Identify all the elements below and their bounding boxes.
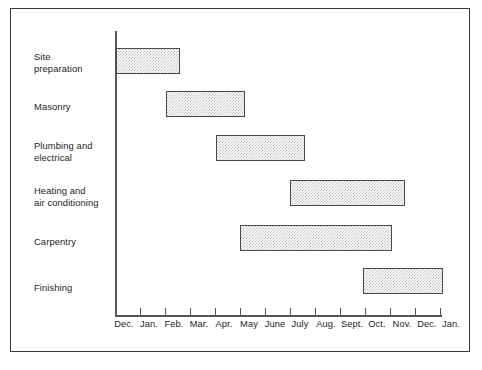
x-tick-label-dec-1: Dec.	[114, 319, 134, 329]
x-tick-7	[290, 308, 291, 316]
x-tick-label-jan-2: Jan.	[442, 319, 460, 329]
x-tick-label-may: May	[240, 319, 258, 329]
x-tick-label-mar: Mar.	[190, 319, 208, 329]
task-bar-finishing[interactable]	[363, 268, 443, 294]
x-tick-12	[415, 308, 416, 316]
x-tick-1	[140, 308, 141, 316]
x-tick-label-july: July	[292, 319, 309, 329]
x-tick-label-jan-1: Jan.	[140, 319, 158, 329]
x-tick-label-apr: Apr.	[216, 319, 233, 329]
task-bar-masonry[interactable]	[166, 91, 245, 117]
row-label-finishing: Finishing	[34, 282, 72, 294]
x-tick-4	[215, 308, 216, 316]
x-tick-13	[440, 308, 441, 316]
x-tick-10	[365, 308, 366, 316]
x-tick-label-aug: Aug.	[316, 319, 336, 329]
row-label-plumbing-electrical: Plumbing and electrical	[34, 140, 93, 163]
x-tick-11	[390, 308, 391, 316]
task-bar-site-preparation[interactable]	[116, 48, 180, 74]
x-tick-label-dec-2: Dec.	[417, 319, 437, 329]
x-tick-8	[315, 308, 316, 316]
task-bar-carpentry[interactable]	[240, 225, 392, 251]
x-tick-label-june: June	[265, 319, 286, 329]
x-tick-6	[265, 308, 266, 316]
task-bar-plumbing-electrical[interactable]	[216, 135, 305, 161]
gantt-chart-figure: Site preparation Masonry Plumbing and el…	[0, 0, 482, 370]
x-tick-2	[165, 308, 166, 316]
row-label-heating-air-conditioning: Heating and air conditioning	[34, 185, 99, 208]
task-bar-heating-air-conditioning[interactable]	[290, 180, 405, 206]
row-label-masonry: Masonry	[34, 101, 71, 113]
row-label-site-preparation: Site preparation	[34, 51, 83, 74]
x-tick-label-feb: Feb.	[164, 319, 183, 329]
x-tick-9	[340, 308, 341, 316]
row-label-carpentry: Carpentry	[34, 236, 76, 248]
x-tick-label-oct: Oct.	[368, 319, 385, 329]
x-tick-3	[190, 308, 191, 316]
x-tick-5	[240, 308, 241, 316]
x-tick-label-nov: Nov.	[393, 319, 412, 329]
x-tick-label-sept: Sept.	[341, 319, 363, 329]
